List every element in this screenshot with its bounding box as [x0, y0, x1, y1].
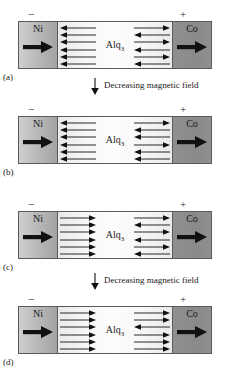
spin-arrow-left: [134, 134, 170, 140]
electrode-co: Co: [173, 22, 211, 68]
electrode-co-label: Co: [173, 118, 211, 129]
spin-arrow-right: [60, 339, 96, 345]
device-stack: NiAlq3Co: [18, 306, 212, 354]
down-arrow-icon: [89, 273, 101, 290]
magnetization-arrow-ni: [23, 231, 53, 243]
spin-arrow-right: [134, 346, 170, 352]
spin-arrow-left: [134, 251, 170, 257]
spin-arrow-column-right: [134, 215, 170, 257]
spin-arrow-right: [60, 222, 96, 228]
transition-c-d: Decreasing magnetic field: [0, 273, 230, 290]
spin-arrow-right: [134, 332, 170, 338]
spin-arrow-left: [60, 142, 96, 148]
spin-arrow-right: [60, 332, 96, 338]
transition-label: Decreasing magnetic field: [104, 80, 198, 91]
spin-arrow-left: [134, 324, 170, 330]
panel-caption: (d): [3, 357, 14, 367]
spin-arrow-right: [134, 244, 170, 250]
electrode-co: Co: [173, 212, 211, 258]
polarity-negative-label: −: [16, 8, 46, 20]
spin-arrow-left: [134, 47, 170, 53]
spin-arrow-right: [60, 317, 96, 323]
spin-arrow-column-left: [60, 310, 96, 352]
spin-arrow-right: [60, 229, 96, 235]
spin-arrow-right: [134, 54, 170, 60]
spin-arrow-right: [60, 215, 96, 221]
spin-arrow-column-left: [60, 25, 96, 67]
electrode-ni-label: Ni: [19, 308, 57, 319]
spin-arrow-column-right: [134, 25, 170, 67]
spin-arrow-right: [134, 310, 170, 316]
spin-arrow-right: [134, 120, 170, 126]
spin-arrow-left: [60, 54, 96, 60]
transition-a-b: Decreasing magnetic field: [0, 78, 230, 95]
organic-spacer-alq3: Alq3: [57, 117, 173, 163]
electrode-ni-label: Ni: [19, 213, 57, 224]
spin-arrow-left: [60, 39, 96, 45]
electrode-ni: Ni: [19, 212, 57, 258]
spin-arrow-right: [60, 310, 96, 316]
spin-arrow-left: [60, 156, 96, 162]
spin-arrow-column-right: [134, 310, 170, 352]
magnetization-arrow-co: [177, 231, 207, 243]
organic-spacer-alq3: Alq3: [57, 212, 173, 258]
panel-b: −+NiAlq3Co(b): [0, 103, 230, 181]
spin-arrow-left: [134, 32, 170, 38]
electrode-ni-label: Ni: [19, 118, 57, 129]
polarity-negative-label: −: [16, 293, 46, 305]
spin-arrow-column-left: [60, 120, 96, 162]
spin-arrow-left: [134, 222, 170, 228]
spin-arrow-right: [60, 324, 96, 330]
electrode-ni: Ni: [19, 22, 57, 68]
magnetization-arrow-ni: [23, 41, 53, 53]
electrode-co-label: Co: [173, 308, 211, 319]
spin-arrow-left: [60, 120, 96, 126]
spin-arrow-right: [60, 244, 96, 250]
spin-arrow-right: [134, 39, 170, 45]
polarity-positive-label: +: [168, 8, 198, 20]
polarity-positive-label: +: [168, 198, 198, 210]
spin-arrow-left: [134, 237, 170, 243]
panel-d: −+NiAlq3Co(d): [0, 293, 230, 371]
spin-arrow-right: [60, 251, 96, 257]
magnetization-arrow-co: [177, 41, 207, 53]
electrode-ni-label: Ni: [19, 23, 57, 34]
spin-arrow-left: [60, 61, 96, 67]
electrode-ni: Ni: [19, 117, 57, 163]
panel-caption: (b): [3, 167, 14, 177]
electrode-co-label: Co: [173, 23, 211, 34]
spin-arrow-right: [134, 317, 170, 323]
magnetization-arrow-co: [177, 326, 207, 338]
spin-arrow-right: [60, 237, 96, 243]
electrode-ni: Ni: [19, 307, 57, 353]
spin-arrow-right: [134, 215, 170, 221]
magnetization-arrow-ni: [23, 326, 53, 338]
spin-arrow-right: [134, 142, 170, 148]
device-stack: NiAlq3Co: [18, 21, 212, 69]
magnetization-arrow-ni: [23, 136, 53, 148]
spin-arrow-right: [134, 229, 170, 235]
spin-arrow-left: [60, 127, 96, 133]
transition-label: Decreasing magnetic field: [104, 275, 198, 286]
magnetization-arrow-co: [177, 136, 207, 148]
polarity-positive-label: +: [168, 293, 198, 305]
spin-arrow-left: [60, 32, 96, 38]
spin-arrow-left: [134, 156, 170, 162]
electrode-co-label: Co: [173, 213, 211, 224]
electrode-co: Co: [173, 307, 211, 353]
spin-arrow-right: [60, 346, 96, 352]
device-stack: NiAlq3Co: [18, 211, 212, 259]
organic-spacer-alq3: Alq3: [57, 22, 173, 68]
device-stack: NiAlq3Co: [18, 116, 212, 164]
spin-arrow-left: [60, 134, 96, 140]
spin-arrow-left: [134, 149, 170, 155]
spin-arrow-left: [134, 61, 170, 67]
panel-c: −+NiAlq3Co(c): [0, 198, 230, 276]
polarity-positive-label: +: [168, 103, 198, 115]
polarity-negative-label: −: [16, 103, 46, 115]
electrode-co: Co: [173, 117, 211, 163]
down-arrow-icon: [89, 78, 101, 95]
spin-arrow-left: [60, 149, 96, 155]
spin-arrow-column-right: [134, 120, 170, 162]
spin-arrow-column-left: [60, 215, 96, 257]
